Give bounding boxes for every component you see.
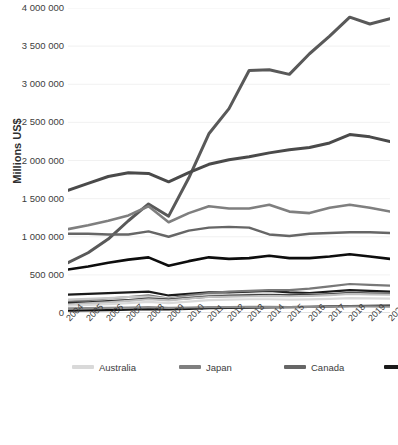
legend-item-label: Australia <box>99 363 136 373</box>
legend-item[interactable]: Australia <box>72 360 179 375</box>
legend-swatch-icon <box>284 365 306 369</box>
y-tick-label: 3 500 000 <box>6 41 64 51</box>
plot-area <box>68 8 390 313</box>
y-tick-label: 0 <box>6 308 64 318</box>
x-axis-tick-labels: 2004200520062007200820092010201120122013… <box>68 316 390 360</box>
legend-item[interactable]: Japan <box>179 360 284 375</box>
y-tick-label: 1 000 000 <box>6 232 64 242</box>
y-tick-label: 3 000 000 <box>6 79 64 89</box>
y-tick-label: 1 500 000 <box>6 194 64 204</box>
legend-swatch-icon <box>179 365 201 369</box>
series-line <box>68 135 390 191</box>
y-axis-tick-labels: 0500 0001 000 0001 500 0002 000 0002 500… <box>0 0 64 321</box>
series-line <box>68 254 390 269</box>
legend-swatch-icon <box>72 365 94 369</box>
legend-item-label: Japan <box>206 363 232 373</box>
y-tick-label: 500 000 <box>6 270 64 280</box>
legend-item[interactable]: Canada <box>284 360 384 375</box>
series-canvas <box>68 8 390 313</box>
line-chart: Millions US$ 0500 0001 000 0001 500 0002… <box>0 0 398 445</box>
y-tick-label: 2 500 000 <box>6 117 64 127</box>
y-tick-label: 4 000 000 <box>6 3 64 13</box>
legend-item[interactable]: United Kingdom <box>384 360 398 375</box>
legend-swatch-icon <box>384 365 398 369</box>
y-tick-label: 2 000 000 <box>6 156 64 166</box>
chart-legend: AustraliaJapanCanadaUnited KingdomChina … <box>72 360 392 434</box>
legend-item-label: Canada <box>311 363 344 373</box>
series-line <box>68 205 390 229</box>
